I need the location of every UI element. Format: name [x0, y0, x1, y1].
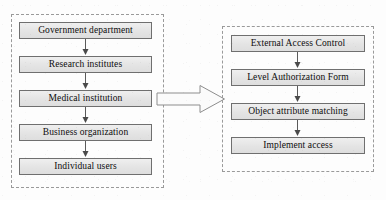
node-level-authorization-form[interactable]: Level Authorization Form — [231, 69, 365, 86]
node-government-department[interactable]: Government department — [19, 22, 152, 39]
node-label: Implement access — [263, 141, 332, 151]
node-label: Research institutes — [49, 60, 122, 70]
node-label: Object attribute matching — [248, 107, 348, 117]
node-label: Individual users — [54, 162, 117, 172]
connector-research-to-medical-icon — [81, 73, 90, 90]
node-object-attribute-matching[interactable]: Object attribute matching — [231, 103, 365, 120]
node-individual-users[interactable]: Individual users — [19, 158, 152, 175]
node-label: Government department — [38, 26, 133, 36]
diagram-canvas: Government department Research institute… — [0, 0, 386, 200]
connector-medical-to-business-icon — [81, 107, 90, 124]
node-research-institutes[interactable]: Research institutes — [19, 56, 152, 73]
connector-gov-to-research-icon — [81, 39, 90, 56]
node-label: External Access Control — [251, 39, 346, 49]
block-arrow-right-icon — [156, 84, 226, 114]
node-label: Level Authorization Form — [247, 73, 349, 83]
node-label: Business organization — [43, 128, 129, 138]
connector-business-to-individual-icon — [81, 141, 90, 158]
connector-eac-to-laf-icon — [293, 52, 302, 69]
node-implement-access[interactable]: Implement access — [231, 137, 365, 154]
node-medical-institution[interactable]: Medical institution — [19, 90, 152, 107]
node-external-access-control[interactable]: External Access Control — [231, 35, 365, 52]
connector-laf-to-oam-icon — [293, 86, 302, 103]
node-business-organization[interactable]: Business organization — [19, 124, 152, 141]
node-label: Medical institution — [49, 94, 123, 104]
connector-oam-to-ia-icon — [293, 120, 302, 137]
